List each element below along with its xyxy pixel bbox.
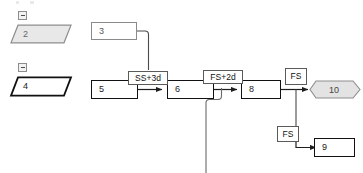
milestone-node-10[interactable]: 10 [309, 80, 361, 99]
edge-fs-to-9 [296, 142, 316, 148]
task-node-9[interactable]: 9 [314, 138, 355, 157]
collapse-toggle-2[interactable] [18, 11, 27, 20]
relationship-text-ss-3d: SS+3d [135, 74, 161, 83]
summary-node-2[interactable]: 2 [10, 24, 72, 44]
task-label-6: 6 [175, 85, 180, 94]
relationship-label-fs-upper[interactable]: FS [285, 68, 307, 85]
edge-bottom-to-fs2d [206, 88, 222, 173]
clipped-artifact [16, 1, 19, 4]
relationship-text-fs-2d: FS+2d [210, 73, 235, 82]
task-label-3: 3 [99, 27, 104, 36]
relationship-text-fs-lower: FS [283, 130, 294, 139]
relationship-label-fs-2d[interactable]: FS+2d [203, 70, 243, 84]
summary-shape-2 [10, 24, 72, 44]
clipped-artifact [30, 1, 34, 4]
summary-label-2: 2 [23, 30, 28, 39]
summary-node-4[interactable]: 4 [10, 76, 72, 97]
summary-label-4: 4 [23, 82, 28, 91]
task-node-3[interactable]: 3 [91, 22, 137, 40]
edge-3-to-ss3d [137, 31, 149, 70]
relationship-text-fs-upper: FS [291, 72, 302, 81]
network-diagram-canvas: 2 4 3 5 6 8 9 10 SS+3d FS+2d FS [0, 0, 363, 173]
milestone-label-10: 10 [329, 86, 339, 95]
collapse-toggle-4[interactable] [18, 63, 27, 72]
task-label-5: 5 [99, 85, 104, 94]
relationship-label-fs-lower[interactable]: FS [277, 126, 299, 142]
task-label-9: 9 [322, 143, 327, 152]
summary-shape-4 [10, 76, 72, 97]
task-label-8: 8 [249, 85, 254, 94]
relationship-label-ss-3d[interactable]: SS+3d [128, 71, 168, 85]
task-node-8[interactable]: 8 [241, 80, 281, 99]
